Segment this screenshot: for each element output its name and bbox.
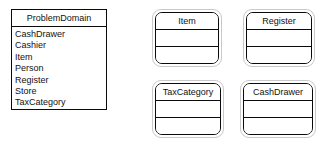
class-name-compartment: CashDrawer	[244, 84, 312, 101]
class-name-label: Register	[262, 17, 296, 26]
class-attributes-compartment[interactable]	[156, 101, 220, 118]
class-attributes-compartment[interactable]	[244, 101, 312, 118]
class-operations-compartment[interactable]	[156, 118, 220, 134]
class-box-taxcategory[interactable]: TaxCategory	[152, 80, 224, 138]
list-item[interactable]: TaxCategory	[15, 97, 106, 108]
class-operations-compartment[interactable]	[247, 47, 311, 63]
class-box-inner: Item	[155, 12, 219, 64]
class-name-label: CashDrawer	[253, 88, 303, 97]
class-name-label: TaxCategory	[163, 88, 214, 97]
list-item[interactable]: CashDrawer	[15, 29, 106, 40]
class-box-inner: TaxCategory	[155, 83, 221, 135]
package-title: ProblemDomain	[27, 14, 92, 23]
class-attributes-compartment[interactable]	[156, 30, 218, 47]
package-class-list: CashDrawer Cashier Item Person Register …	[12, 27, 106, 109]
class-name-label: Item	[178, 17, 196, 26]
class-box-item[interactable]: Item	[152, 9, 222, 67]
class-operations-compartment[interactable]	[156, 47, 218, 63]
package-header: ProblemDomain	[12, 10, 106, 27]
list-item[interactable]: Store	[15, 86, 106, 97]
class-operations-compartment[interactable]	[244, 118, 312, 134]
list-item[interactable]: Item	[15, 52, 106, 63]
list-item[interactable]: Register	[15, 75, 106, 86]
class-attributes-compartment[interactable]	[247, 30, 311, 47]
class-name-compartment: Item	[156, 13, 218, 30]
list-item[interactable]: Person	[15, 63, 106, 74]
class-box-cashdrawer[interactable]: CashDrawer	[240, 80, 316, 138]
class-box-inner: CashDrawer	[243, 83, 313, 135]
list-item[interactable]: Cashier	[15, 40, 106, 51]
class-box-register[interactable]: Register	[243, 9, 315, 67]
class-name-compartment: Register	[247, 13, 311, 30]
class-box-inner: Register	[246, 12, 312, 64]
diagram-canvas: ProblemDomain CashDrawer Cashier Item Pe…	[0, 0, 325, 145]
package-problemdomain[interactable]: ProblemDomain CashDrawer Cashier Item Pe…	[11, 9, 107, 110]
class-name-compartment: TaxCategory	[156, 84, 220, 101]
